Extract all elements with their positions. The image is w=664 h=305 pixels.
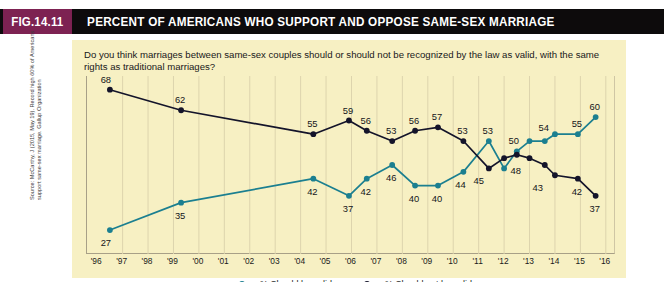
data-point-label: 68 [101, 73, 111, 84]
x-axis-tick-09: '09 [421, 256, 432, 266]
source-citation-container: Source: McCarthy, J (2015, May 19). Reco… [58, 122, 74, 282]
data-point [364, 128, 370, 134]
data-point-label: 55 [307, 118, 317, 129]
data-point-label: 37 [589, 202, 599, 213]
data-point-label: 40 [409, 192, 419, 203]
data-point [461, 169, 467, 175]
x-axis-tick-labels: '96'97'98'99'00'01'02'03'04'05'06'07'08'… [86, 256, 615, 270]
data-point [593, 114, 599, 120]
x-axis-tick-04: '04 [294, 256, 305, 266]
data-point [107, 87, 113, 93]
x-axis-tick-12: '12 [498, 256, 509, 266]
data-point [552, 131, 558, 137]
data-point [542, 138, 548, 144]
x-axis-tick-15: '15 [574, 256, 585, 266]
data-point [389, 162, 395, 168]
data-point [364, 176, 370, 182]
data-point-label: 53 [457, 125, 467, 136]
data-point [501, 166, 507, 172]
data-point-label: 57 [432, 111, 442, 122]
data-point [461, 138, 467, 144]
x-axis-tick-00: '00 [192, 256, 203, 266]
data-point [527, 138, 533, 144]
data-point-label: 45 [474, 175, 484, 186]
plot-area [86, 76, 615, 254]
data-point-label: 42 [307, 185, 317, 196]
x-axis-tick-97: '97 [116, 256, 127, 266]
data-point [412, 128, 418, 134]
data-point-label: 27 [101, 237, 111, 248]
x-axis-tick-16: '16 [599, 256, 610, 266]
bottom-margin [0, 282, 664, 305]
data-point-label: 44 [455, 178, 465, 189]
data-point-label: 46 [386, 172, 396, 183]
data-point [310, 131, 316, 137]
data-point [178, 200, 184, 206]
page-title: PERCENT OF AMERICANS WHO SUPPORT AND OPP… [75, 9, 555, 34]
x-axis-tick-99: '99 [167, 256, 178, 266]
data-point-label: 48 [511, 165, 521, 176]
data-point-label: 54 [539, 121, 549, 132]
x-axis-tick-98: '98 [142, 256, 153, 266]
x-axis-tick-14: '14 [548, 256, 559, 266]
data-point [501, 155, 507, 161]
data-point-label: 37 [343, 202, 353, 213]
data-point [486, 166, 492, 172]
data-point-label: 42 [572, 185, 582, 196]
figure-title-bar: FIG.14.11 PERCENT OF AMERICANS WHO SUPPO… [0, 9, 664, 34]
x-axis-tick-08: '08 [396, 256, 407, 266]
data-point-label: 60 [589, 101, 599, 112]
data-point-label: 53 [386, 125, 396, 136]
data-point [346, 193, 352, 199]
data-point-label: 62 [175, 94, 185, 105]
data-point [514, 152, 520, 158]
figure-body: Do you think marriages between same-sex … [0, 34, 664, 282]
data-point-label: 56 [361, 114, 371, 125]
x-axis-tick-02: '02 [243, 256, 254, 266]
x-axis-tick-05: '05 [320, 256, 331, 266]
x-axis-tick-11: '11 [473, 256, 483, 266]
data-point [575, 176, 581, 182]
x-axis-tick-13: '13 [523, 256, 534, 266]
data-point [435, 124, 441, 130]
x-axis-tick-06: '06 [345, 256, 356, 266]
data-point-label: 55 [572, 118, 582, 129]
x-axis-tick-03: '03 [269, 256, 280, 266]
x-axis-tick-07: '07 [370, 256, 381, 266]
data-point-label: 59 [343, 104, 353, 115]
data-point-label: 56 [409, 114, 419, 125]
x-axis-tick-01: '01 [218, 256, 229, 266]
data-point [486, 138, 492, 144]
data-point-label: 42 [361, 185, 371, 196]
data-point [178, 107, 184, 113]
data-point [310, 176, 316, 182]
data-point [552, 172, 558, 178]
data-point [593, 193, 599, 199]
data-point [346, 118, 352, 124]
data-point [412, 183, 418, 189]
line-chart-svg [87, 76, 616, 254]
data-point-label: 35 [175, 209, 185, 220]
x-axis-tick-96: '96 [91, 256, 102, 266]
data-point-label: 43 [533, 182, 543, 193]
data-point [435, 183, 441, 189]
x-axis-tick-10: '10 [447, 256, 458, 266]
data-point [107, 227, 113, 233]
survey-question: Do you think marriages between same-sex … [84, 49, 604, 74]
data-point [575, 131, 581, 137]
data-point-label: 53 [483, 125, 493, 136]
data-point [389, 138, 395, 144]
data-point [527, 155, 533, 161]
data-point-label: 50 [509, 135, 519, 146]
data-point-label: 40 [432, 192, 442, 203]
data-point [542, 162, 548, 168]
source-citation: Source: McCarthy, J (2015, May 19). Reco… [29, 25, 43, 200]
